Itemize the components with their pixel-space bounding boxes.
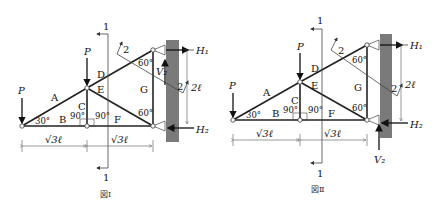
section-arrow-2-top	[117, 42, 122, 54]
span-label-left: √3ℓ	[256, 128, 273, 139]
span-label-left: √3ℓ	[45, 134, 62, 145]
section-label-2-bottom: 2	[391, 83, 397, 94]
figure-caption: 図Ⅱ	[311, 185, 324, 194]
angle-label-c-right: 90°	[308, 105, 323, 115]
angle-label-c-left: 90°	[283, 105, 298, 115]
angle-label-top: 60°	[352, 55, 367, 65]
node	[85, 86, 89, 90]
load-label-left: P	[17, 85, 25, 96]
member-label-G: G	[140, 84, 148, 95]
section-label-1-top: 1	[103, 21, 109, 32]
figure-1: P P A B C D E F G 30° 90° 90° 60° 60° 1 …	[17, 21, 209, 199]
node	[298, 80, 302, 84]
section-label-2-bottom: 2	[177, 81, 183, 92]
member-label-D: D	[311, 63, 319, 74]
angle-label-c-left: 90°	[70, 111, 85, 121]
angle-label-bottom: 60°	[352, 103, 367, 113]
reaction-label-h2: H₂	[195, 124, 209, 135]
height-label: 2ℓ	[190, 82, 202, 93]
angle-label-top: 60°	[138, 58, 153, 68]
figure-2: P P A B C D E F G 30° 90° 90° 60° 60° 1 …	[228, 15, 423, 194]
node	[365, 118, 369, 122]
section-label-1-top: 1	[317, 15, 323, 26]
angle-label-bottom: 60°	[138, 108, 153, 118]
angle-label-30: 30°	[35, 116, 50, 126]
section-label-1-bottom: 1	[317, 168, 323, 179]
reaction-label-v2: V₂	[374, 154, 385, 165]
section-arrow-2-top	[331, 38, 337, 50]
node	[85, 124, 89, 128]
load-label-left: P	[228, 80, 236, 91]
member-label-F: F	[328, 108, 335, 119]
node	[365, 43, 369, 47]
section-label-2-top: 2	[123, 44, 129, 55]
member-label-G: G	[354, 82, 362, 93]
member-label-A: A	[262, 87, 271, 98]
node	[20, 124, 24, 128]
reaction-label-h2: H₂	[409, 119, 423, 130]
reaction-label-h1: H₁	[409, 40, 423, 51]
height-label: 2ℓ	[404, 79, 416, 90]
member-label-E: E	[311, 80, 318, 91]
reaction-label-v2: V₂	[156, 66, 167, 77]
section-label-1-bottom: 1	[103, 172, 109, 183]
span-label-right: √3ℓ	[111, 134, 128, 145]
truss-diagrams: P P A B C D E F G 30° 90° 90° 60° 60° 1 …	[0, 0, 437, 212]
member-label-A: A	[50, 92, 59, 103]
node	[231, 118, 235, 122]
member-label-F: F	[114, 114, 121, 125]
member-label-B: B	[272, 108, 279, 119]
load-label-middle: P	[83, 46, 91, 57]
member-label-E: E	[97, 84, 104, 95]
member-label-D: D	[97, 69, 105, 80]
node	[151, 48, 155, 52]
member-label-B: B	[59, 114, 66, 125]
span-label-right: √3ℓ	[324, 128, 341, 139]
node	[298, 118, 302, 122]
node	[151, 124, 155, 128]
reaction-label-h1: H₁	[195, 45, 209, 56]
angle-label-30: 30°	[246, 110, 261, 120]
section-label-2-top: 2	[338, 45, 344, 56]
figure-caption: 図Ⅰ	[100, 190, 111, 199]
load-label-middle: P	[296, 41, 304, 52]
